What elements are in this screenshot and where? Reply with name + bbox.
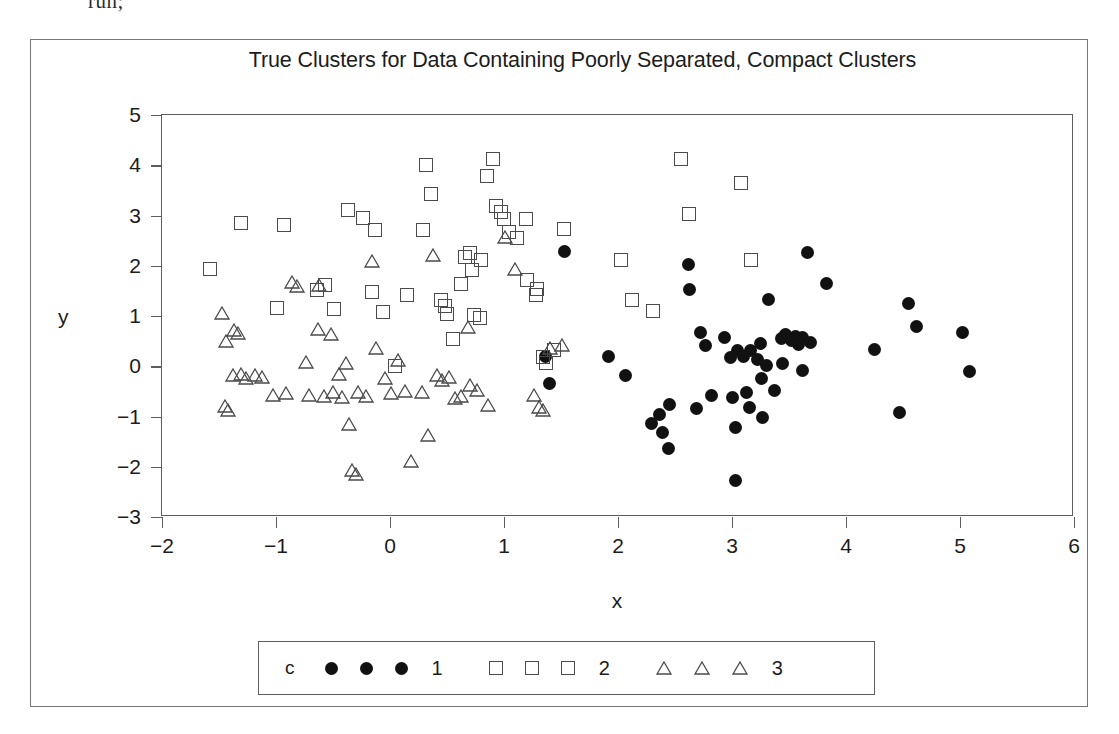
data-point-cluster-3 [289,286,305,299]
x-tick [162,517,163,528]
data-point-cluster-1 [762,293,775,306]
data-point-cluster-2 [400,288,414,302]
open-square-icon [561,661,575,675]
y-tick [151,165,162,166]
y-tick [151,266,162,267]
plot-canvas [162,115,1072,515]
data-point-cluster-2 [327,302,341,316]
data-point-cluster-1 [682,258,695,271]
data-point-cluster-3 [368,348,384,361]
plot-frame: −2−10123456 −3−2−1012345 [161,114,1073,516]
y-tick-label: 4 [129,153,141,177]
data-point-cluster-3 [298,362,314,375]
data-point-cluster-1 [820,277,833,290]
data-point-cluster-3 [230,333,246,346]
open-square-icon [489,661,503,675]
x-tick-label: −2 [150,534,174,558]
data-point-cluster-3 [535,410,551,423]
data-point-cluster-1 [729,421,742,434]
x-tick [504,517,505,528]
x-tick-label: 6 [1068,534,1080,558]
data-point-cluster-2 [203,262,217,276]
data-point-cluster-2 [341,203,355,217]
data-point-cluster-1 [956,326,969,339]
code-fragment: run; [88,0,124,14]
data-point-cluster-3 [338,363,354,376]
data-point-cluster-1 [902,297,915,310]
data-point-cluster-3 [311,285,327,298]
y-axis-label: y [58,305,69,329]
data-point-cluster-3 [364,261,380,274]
legend: c 123 [258,641,875,695]
y-tick-label: −2 [117,455,141,479]
data-point-cluster-1 [756,411,769,424]
legend-title: c [285,657,295,679]
data-point-cluster-2 [424,187,438,201]
x-tick-label: 2 [612,534,624,558]
data-point-cluster-2 [416,223,430,237]
data-point-cluster-1 [755,372,768,385]
open-triangle-icon [694,661,710,675]
y-tick-label: 5 [129,103,141,127]
data-point-cluster-1 [743,401,756,414]
open-square-icon [525,661,539,675]
data-point-cluster-3 [348,474,364,487]
x-tick [1074,517,1075,528]
data-point-cluster-1 [740,386,753,399]
x-tick-label: 0 [384,534,396,558]
data-point-cluster-1 [656,426,669,439]
data-point-cluster-2 [625,293,639,307]
legend-label: 2 [599,657,610,680]
y-tick [151,115,162,116]
data-point-cluster-3 [278,393,294,406]
y-tick-label: −1 [117,405,141,429]
data-point-cluster-3 [480,405,496,418]
data-point-cluster-3 [301,395,317,408]
legend-entry-1: 1 [325,657,443,680]
data-point-cluster-2 [674,152,688,166]
x-tick-label: −1 [264,534,288,558]
filled-circle-icon [360,662,373,675]
x-tick-label: 4 [840,534,852,558]
data-point-cluster-2 [419,158,433,172]
data-point-cluster-1 [776,357,789,370]
data-point-cluster-3 [460,327,476,340]
data-point-cluster-3 [425,255,441,268]
data-point-cluster-2 [519,212,533,226]
data-point-cluster-1 [893,406,906,419]
data-point-cluster-3 [420,435,436,448]
data-point-cluster-3 [414,392,430,405]
y-tick-label: −3 [117,505,141,529]
legend-entry-3: 3 [656,657,783,680]
data-point-cluster-1 [718,331,731,344]
data-point-cluster-1 [724,351,737,364]
x-tick [618,517,619,528]
data-point-cluster-3 [358,396,374,409]
y-tick [151,316,162,317]
x-tick [390,517,391,528]
x-tick-label: 3 [726,534,738,558]
data-point-cluster-1 [910,320,923,333]
legend-symbols [325,662,430,675]
data-point-cluster-1 [619,369,632,382]
legend-symbols [656,661,770,675]
data-point-cluster-1 [729,474,742,487]
data-point-cluster-1 [963,365,976,378]
data-point-cluster-2 [454,277,468,291]
data-point-cluster-3 [334,397,350,410]
data-point-cluster-1 [543,377,556,390]
data-point-cluster-1 [662,442,675,455]
data-point-cluster-1 [663,398,676,411]
x-tick [276,517,277,528]
data-point-cluster-2 [234,216,248,230]
legend-entries: 123 [325,657,783,680]
data-point-cluster-1 [683,283,696,296]
legend-symbols [489,661,597,675]
data-point-cluster-3 [220,410,236,423]
data-point-cluster-1 [760,359,773,372]
data-point-cluster-3 [341,424,357,437]
data-point-cluster-2 [376,305,390,319]
data-point-cluster-3 [323,334,339,347]
data-point-cluster-2 [734,176,748,190]
data-point-cluster-1 [694,326,707,339]
